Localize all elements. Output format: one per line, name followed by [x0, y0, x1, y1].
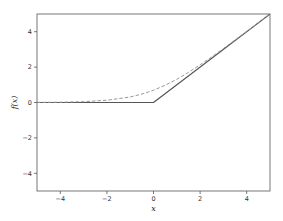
softplus-line [37, 14, 270, 103]
relu-line [37, 14, 270, 103]
y-tick-label: −4 [22, 170, 32, 178]
y-tick-label: 2 [28, 63, 32, 71]
x-axis-label: x [151, 204, 156, 213]
y-tick-label: 4 [28, 28, 32, 36]
x-tick-label: −4 [56, 195, 66, 203]
y-tick-label: 0 [28, 99, 32, 107]
x-tick-label: 4 [245, 195, 249, 203]
y-axis-ticks: −4−2024 [22, 28, 37, 178]
y-tick-label: −2 [22, 134, 32, 142]
x-tick-label: −2 [102, 195, 112, 203]
y-axis-label: f(x) [10, 96, 19, 111]
x-tick-label: 0 [151, 195, 155, 203]
series-layer [37, 14, 270, 103]
x-axis-ticks: −4−2024 [56, 191, 249, 203]
chart: −4−2024 −4−2024 x f(x) [0, 0, 283, 221]
x-tick-label: 2 [198, 195, 202, 203]
